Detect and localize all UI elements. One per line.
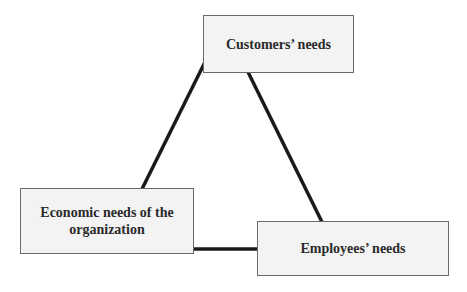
node-label: Customers’ needs	[226, 36, 331, 53]
node-label: Economic needs of the organization	[31, 204, 183, 238]
edge-customers-employees	[248, 72, 322, 222]
node-label: Employees’ needs	[300, 240, 405, 257]
node-economic-needs: Economic needs of the organization	[20, 188, 194, 254]
node-customers-needs: Customers’ needs	[203, 15, 354, 73]
diagram-canvas: Customers’ needs Economic needs of the o…	[0, 0, 467, 292]
edge-customers-economic	[142, 62, 205, 189]
node-employees-needs: Employees’ needs	[257, 221, 449, 276]
